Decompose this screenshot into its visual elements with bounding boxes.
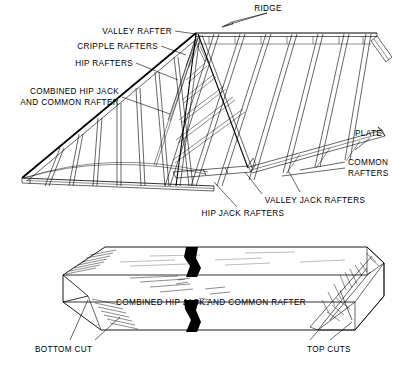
label-combined-hip-jack-line1: COMBINED HIP JACK bbox=[30, 87, 119, 96]
label-combined-member: COMBINED HIP JACK AND COMMON RAFTER bbox=[116, 298, 306, 307]
label-plate: PLATE bbox=[355, 129, 382, 138]
label-hip-rafters: HIP RAFTERS bbox=[75, 59, 133, 68]
label-combined-hip-jack-line2: AND COMMON RAFTER bbox=[20, 98, 119, 107]
label-common-rafters-line2: RAFTERS bbox=[348, 169, 389, 178]
label-hip-jack-rafters: HIP JACK RAFTERS bbox=[202, 209, 285, 218]
label-cripple-rafters: CRIPPLE RAFTERS bbox=[77, 42, 158, 51]
label-common-rafters-line1: COMMON bbox=[348, 158, 388, 167]
label-ridge: RIDGE bbox=[254, 4, 282, 13]
roof-framing-figure: RIDGE VALLEY RAFTER CRIPPLE RAFTERS HIP … bbox=[0, 0, 419, 373]
label-valley-jack-rafters: VALLEY JACK RAFTERS bbox=[265, 196, 366, 205]
label-bottom-cut: BOTTOM CUT bbox=[35, 345, 92, 354]
label-top-cuts: TOP CUTS bbox=[307, 345, 351, 354]
label-valley-rafter: VALLEY RAFTER bbox=[102, 27, 172, 36]
